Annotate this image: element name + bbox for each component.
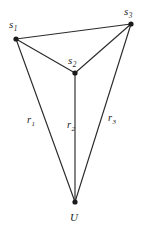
edge-s1-s2 [16,39,75,73]
edge-label-r1: r1 [27,114,35,128]
vertex-dots [13,21,133,204]
vertex-dot-s3 [128,21,133,26]
vertex-dot-s2 [72,70,77,75]
graph-canvas: s1 s2 s3 U r1 r2 r3 [0,0,147,228]
geometry-figure: s1 s2 s3 U r1 r2 r3 [0,0,147,228]
edge-label-r1-sub: 1 [32,120,36,128]
edge-label-r2: r2 [67,119,76,133]
node-label-s1: s1 [9,18,17,33]
edge-s2-s3 [75,24,131,73]
radial-labels: r1 r2 r3 [27,112,117,133]
radial-line-r3 [75,24,131,202]
node-label-u: U [70,211,79,223]
vertex-dot-u [72,199,77,204]
node-label-s3-sub: 3 [128,12,133,20]
node-label-s3: s3 [124,5,133,20]
radial-edges [16,24,131,202]
edge-label-r3-sub: 3 [112,118,117,126]
vertex-dot-s1 [13,36,18,41]
node-label-s2-sub: 2 [73,61,77,69]
edge-label-r3: r3 [108,112,117,126]
node-label-s1-sub: 1 [14,25,18,33]
node-label-s2: s2 [68,54,77,69]
edge-s1-s3 [16,24,131,39]
edge-label-r2-sub: 2 [72,125,76,133]
